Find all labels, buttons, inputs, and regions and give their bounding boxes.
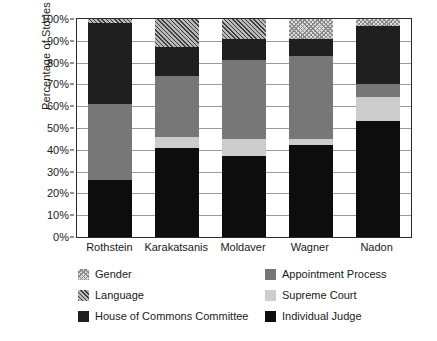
bar-segment <box>222 139 266 156</box>
y-axis-ticks: 0%10%20%30%40%50%60%70%80%90%100% <box>0 18 74 238</box>
bar-segment <box>88 19 132 23</box>
y-tick-mark <box>70 19 74 20</box>
x-tick-label: Nadon <box>360 241 392 253</box>
gender-swatch <box>78 269 89 280</box>
bar-group <box>289 19 333 237</box>
y-tick-label: 40% <box>47 144 69 155</box>
y-tick-mark <box>70 215 74 216</box>
bar-group <box>88 19 132 237</box>
y-tick-label: 80% <box>47 57 69 68</box>
bar-segment <box>289 19 333 39</box>
bar-segment <box>356 19 400 26</box>
bar-segment <box>356 26 400 85</box>
y-tick-mark <box>70 237 74 238</box>
legend-item-label: Supreme Court <box>282 289 357 301</box>
y-tick-mark <box>70 84 74 85</box>
bar-segment <box>289 139 333 146</box>
bar-segment <box>289 145 333 237</box>
chart-legend: GenderAppointment ProcessLanguageSupreme… <box>60 268 420 334</box>
y-tick-label: 0% <box>53 232 69 243</box>
legend-item[interactable]: Appointment Process <box>265 268 387 280</box>
supreme-court-swatch <box>265 290 276 301</box>
y-tick-mark <box>70 193 74 194</box>
legend-item[interactable]: Supreme Court <box>265 289 357 301</box>
y-tick-label: 60% <box>47 101 69 112</box>
bar-segment <box>155 47 199 75</box>
bar-segment <box>222 39 266 61</box>
y-tick-mark <box>70 128 74 129</box>
bar-segment <box>222 19 266 39</box>
legend-item-label: Gender <box>95 268 132 280</box>
x-tick-label: Rothstein <box>86 241 132 253</box>
bar-segment <box>289 39 333 56</box>
house-of-commons-committee-swatch <box>78 311 89 322</box>
y-tick-label: 70% <box>47 79 69 90</box>
x-tick-label: Wagner <box>291 241 329 253</box>
y-tick-label: 100% <box>41 14 69 25</box>
legend-item[interactable]: Gender <box>78 268 132 280</box>
bar-group <box>356 19 400 237</box>
bar-segment <box>88 180 132 237</box>
y-tick-label: 10% <box>47 210 69 221</box>
bar-segment <box>88 23 132 104</box>
bar-series-container <box>77 19 411 237</box>
bar-segment <box>155 148 199 237</box>
bar-group <box>155 19 199 237</box>
x-tick-label: Moldaver <box>220 241 265 253</box>
legend-item[interactable]: Individual Judge <box>265 310 362 322</box>
y-tick-label: 20% <box>47 188 69 199</box>
bar-segment <box>155 76 199 137</box>
plot-area <box>76 18 412 238</box>
y-tick-mark <box>70 40 74 41</box>
bar-segment <box>155 19 199 47</box>
bar-segment <box>289 56 333 139</box>
legend-item-label: Appointment Process <box>282 268 387 280</box>
bar-segment <box>155 137 199 148</box>
bar-segment <box>222 60 266 138</box>
language-swatch <box>78 290 89 301</box>
y-tick-label: 50% <box>47 123 69 134</box>
y-tick-label: 30% <box>47 166 69 177</box>
stacked-bar-chart: Percentage of Stories 0%10%20%30%40%50%6… <box>0 0 437 341</box>
legend-item[interactable]: House of Commons Committee <box>78 310 248 322</box>
x-axis-labels: RothsteinKarakatsanisMoldaverWagnerNadon <box>76 241 412 259</box>
bar-group <box>222 19 266 237</box>
y-tick-mark <box>70 171 74 172</box>
y-tick-mark <box>70 106 74 107</box>
x-tick-label: Karakatsanis <box>144 241 208 253</box>
bar-segment <box>222 156 266 237</box>
legend-item-label: House of Commons Committee <box>95 310 248 322</box>
y-tick-label: 90% <box>47 35 69 46</box>
individual-judge-swatch <box>265 311 276 322</box>
bar-segment <box>356 121 400 237</box>
y-tick-mark <box>70 62 74 63</box>
legend-item[interactable]: Language <box>78 289 144 301</box>
y-tick-mark <box>70 149 74 150</box>
appointment-process-swatch <box>265 269 276 280</box>
bar-segment <box>356 84 400 97</box>
bar-segment <box>88 104 132 180</box>
bar-segment <box>356 97 400 121</box>
legend-item-label: Language <box>95 289 144 301</box>
legend-item-label: Individual Judge <box>282 310 362 322</box>
